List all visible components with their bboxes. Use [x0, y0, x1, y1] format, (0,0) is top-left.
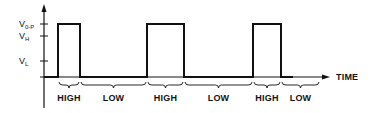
level-label: VL [19, 56, 29, 67]
segment-label-high: HIGH [57, 93, 80, 103]
segment-brace [81, 82, 146, 88]
segment-brace [148, 82, 183, 88]
pulse-train [44, 24, 293, 77]
segment-braces: HIGHLOWHIGHLOWHIGHLOW [57, 82, 319, 103]
segment-label-low: LOW [290, 93, 312, 103]
segment-brace [254, 82, 280, 88]
level-label: V0-P [19, 19, 34, 30]
x-axis-arrow-icon [322, 75, 330, 80]
segment-brace [185, 82, 252, 88]
segment-brace [282, 82, 319, 88]
segment-label-high: HIGH [154, 93, 177, 103]
level-label: VH [19, 31, 29, 42]
segment-label-low: LOW [208, 93, 230, 103]
segment-label-low: LOW [103, 93, 125, 103]
y-axis-arrow-icon [42, 4, 47, 12]
pulse-waveform-path [44, 24, 293, 77]
segment-label-high: HIGH [255, 93, 278, 103]
x-axis-label: TIME [336, 72, 358, 82]
pulse-waveform-diagram: V0-PVHVL HIGHLOWHIGHLOWHIGHLOW TIME [0, 0, 372, 113]
waveform-canvas: V0-PVHVL HIGHLOWHIGHLOWHIGHLOW TIME [0, 0, 372, 113]
segment-brace [59, 82, 79, 88]
